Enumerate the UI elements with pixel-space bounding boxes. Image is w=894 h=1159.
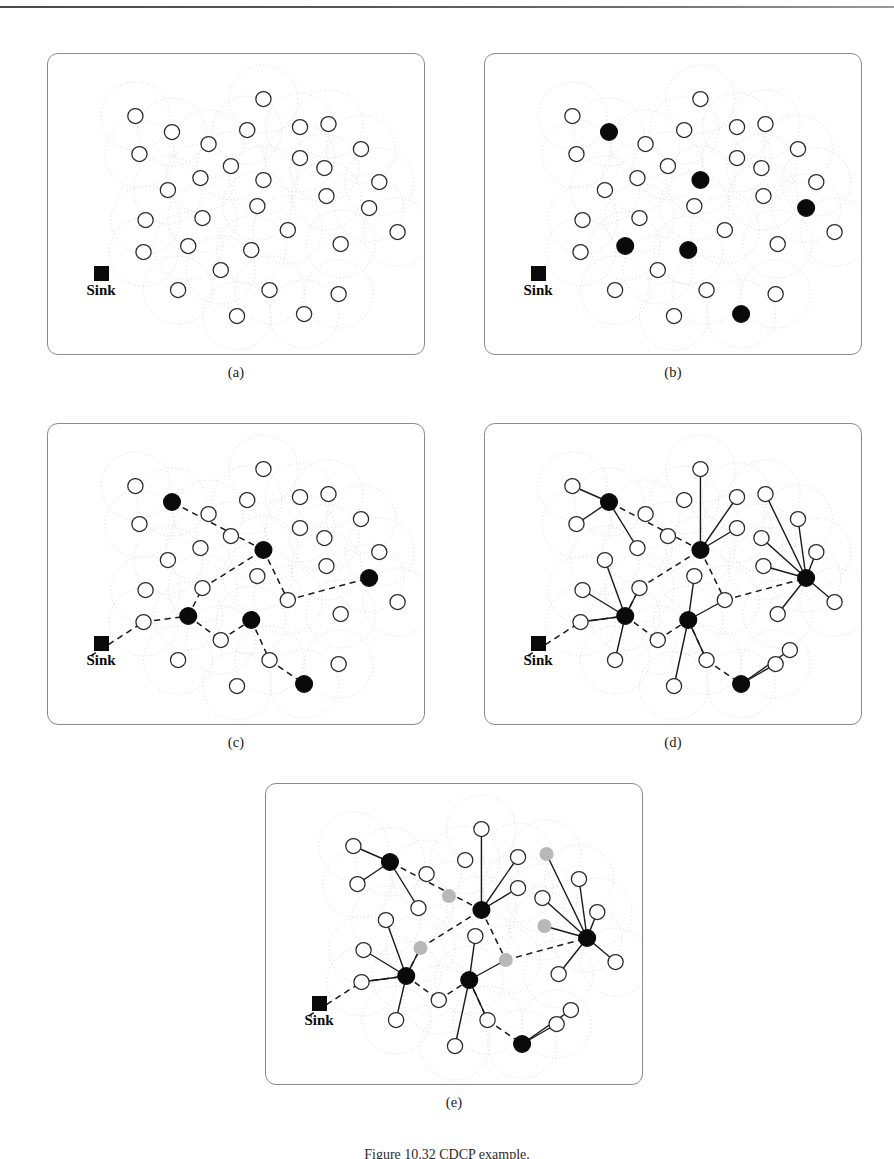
sensor-node — [666, 679, 681, 694]
sensor-node — [551, 967, 566, 982]
cluster-head-node — [180, 608, 197, 625]
sensor-node — [756, 559, 771, 574]
sensor-node — [280, 593, 295, 608]
sink-square-icon — [531, 266, 546, 281]
sensor-node — [317, 531, 332, 546]
sensor-node — [666, 309, 681, 324]
sink-label: Sink — [511, 283, 565, 299]
cluster-head-node — [398, 968, 415, 985]
sensor-node — [693, 462, 708, 477]
cluster-head-node — [692, 542, 709, 559]
sensor-node — [563, 1003, 578, 1018]
sensor-node — [458, 853, 473, 868]
sink-marker-b: Sink — [511, 266, 565, 299]
sensor-node — [350, 877, 365, 892]
sensor-node — [213, 633, 228, 648]
panel-label-b: (b) — [613, 364, 733, 381]
sink-square-icon — [531, 636, 546, 651]
panel-label-a: (a) — [176, 364, 296, 381]
panel-e: Sink — [265, 783, 643, 1085]
sensor-node — [240, 493, 255, 508]
sensor-node — [809, 545, 824, 560]
panel-b: Sink — [484, 53, 862, 355]
panel-b-canvas — [485, 54, 861, 354]
figure-caption: Figure 10.32 CDCP example. — [0, 1147, 894, 1159]
sensor-node — [411, 901, 426, 916]
cluster-head-node — [461, 972, 478, 989]
sensor-node — [535, 891, 550, 906]
sensor-node — [699, 283, 714, 298]
sensor-node — [292, 490, 307, 505]
sink-square-icon — [94, 636, 109, 651]
cluster-head-node — [798, 200, 815, 217]
sensor-node — [262, 283, 277, 298]
sensor-node — [321, 487, 336, 502]
sensor-node — [280, 223, 295, 238]
sensor-node — [372, 175, 387, 190]
sensor-node — [354, 975, 369, 990]
cluster-head-node — [579, 930, 596, 947]
sensor-node — [319, 189, 334, 204]
sink-marker-e: Sink — [292, 996, 346, 1029]
cluster-head-node — [164, 494, 181, 511]
sensor-node — [687, 199, 702, 214]
sensor-node — [650, 263, 665, 278]
sensor-node — [256, 173, 271, 188]
panel-c: Sink — [47, 423, 425, 725]
sensor-node — [164, 125, 179, 140]
sensor-node — [250, 199, 265, 214]
cluster-head-node — [601, 494, 618, 511]
sensor-node — [229, 679, 244, 694]
sensor-node — [128, 109, 143, 124]
panel-label-e: (e) — [394, 1094, 514, 1111]
sensor-node — [510, 850, 525, 865]
sensor-node — [571, 872, 586, 887]
sensor-node — [693, 92, 708, 107]
sensor-node — [565, 479, 580, 494]
sensor-node — [729, 120, 744, 135]
sensor-node — [770, 237, 785, 252]
sensor-node — [729, 521, 744, 536]
sensor-node — [244, 243, 259, 258]
sink-label: Sink — [74, 653, 128, 669]
sleeping-node — [413, 941, 427, 955]
sensor-node — [378, 913, 393, 928]
cluster-head-node — [680, 242, 697, 259]
sensor-node — [677, 493, 692, 508]
sensor-node — [575, 213, 590, 228]
sensor-node — [132, 147, 147, 162]
cluster-head-node — [601, 124, 618, 141]
sink-square-icon — [94, 266, 109, 281]
sensor-nodes — [128, 92, 405, 324]
sensor-node — [181, 239, 196, 254]
cluster-head-node — [617, 238, 634, 255]
sensor-node — [758, 117, 773, 132]
sensor-node — [262, 653, 277, 668]
sensor-node — [630, 541, 645, 556]
cluster-head-node — [361, 570, 378, 587]
sensor-node — [201, 137, 216, 152]
sensor-node — [607, 283, 622, 298]
sensor-node — [331, 657, 346, 672]
sensor-node — [790, 142, 805, 157]
sensor-node — [650, 633, 665, 648]
sensor-node — [390, 595, 405, 610]
sensor-node — [319, 559, 334, 574]
sensor-node — [677, 123, 692, 138]
sensor-node — [138, 583, 153, 598]
cluster-head-node — [617, 608, 634, 625]
sensor-node — [597, 183, 612, 198]
sensor-node — [754, 161, 769, 176]
sensor-node — [768, 287, 783, 302]
sensor-node — [827, 595, 842, 610]
sensor-node — [250, 569, 265, 584]
panel-c-canvas — [48, 424, 424, 724]
sensor-node — [256, 462, 271, 477]
sensor-node — [590, 905, 605, 920]
sensor-nodes — [128, 462, 405, 694]
panel-d-canvas — [485, 424, 861, 724]
sensor-node — [292, 151, 307, 166]
sensor-node — [333, 237, 348, 252]
sensor-node — [756, 189, 771, 204]
sensor-node — [372, 545, 387, 560]
